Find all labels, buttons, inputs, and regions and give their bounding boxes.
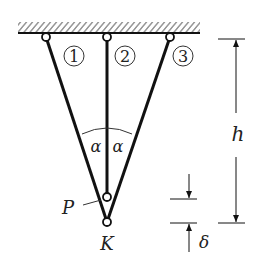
bar-label-3: 3	[173, 46, 193, 66]
pin-1	[42, 33, 50, 41]
svg-text:δ: δ	[199, 232, 209, 252]
pin-P	[103, 193, 111, 201]
bar-label-2: 2	[115, 46, 135, 66]
dimension-h: h	[218, 39, 245, 223]
bar-3	[107, 37, 170, 222]
svg-text:1: 1	[69, 47, 79, 66]
label-K: K	[99, 233, 115, 254]
pin-2	[103, 33, 111, 41]
pin-3	[166, 33, 174, 41]
bar-label-1: 1	[64, 46, 84, 66]
dimension-delta: δ	[170, 174, 209, 252]
truss-diagram: 1 2 3 α α P K h δ	[0, 0, 259, 269]
svg-text:h: h	[232, 122, 245, 146]
ceiling-support	[18, 22, 200, 33]
alpha-left: α	[91, 137, 102, 156]
p-leader	[83, 200, 101, 205]
alpha-right: α	[113, 137, 124, 156]
svg-text:2: 2	[120, 47, 130, 66]
pin-K	[103, 218, 111, 226]
svg-text:3: 3	[178, 47, 188, 66]
label-P: P	[61, 197, 75, 218]
